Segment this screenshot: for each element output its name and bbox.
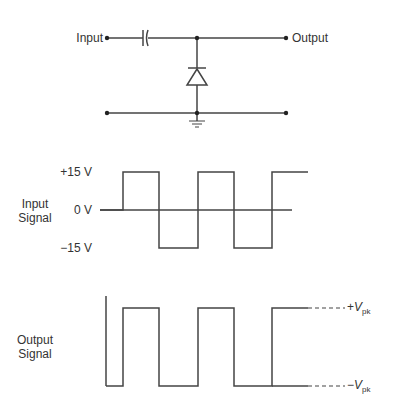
pos-sign: +	[347, 300, 354, 314]
junction-dot-bottom	[195, 111, 199, 115]
tick-minus15v: −15 V	[48, 241, 92, 255]
output-signal-title: Output Signal	[8, 333, 62, 361]
tick-0v: 0 V	[48, 203, 92, 217]
input-waveform	[100, 172, 308, 248]
capacitor-plate-right	[147, 30, 149, 46]
output-waveform	[106, 296, 345, 386]
pk-subscript: pk	[362, 307, 370, 316]
junction-dot-top	[195, 36, 199, 40]
pk-subscript: pk	[362, 385, 370, 394]
circuit-input-label: Input	[50, 31, 103, 45]
input-terminal-dot	[105, 36, 109, 40]
ground-terminal-dot-left	[105, 111, 109, 115]
pos-vpk-label: +Vpk	[347, 300, 370, 319]
v-symbol: V	[354, 300, 362, 314]
neg-sign: −	[347, 378, 354, 392]
output-signal-title-line2: Signal	[8, 347, 62, 361]
output-square-wave	[106, 308, 308, 386]
output-terminal-dot	[284, 36, 288, 40]
neg-vpk-label: −Vpk	[347, 378, 370, 397]
diode-triangle-icon	[187, 69, 207, 85]
v-symbol: V	[354, 378, 362, 392]
tick-plus15v: +15 V	[48, 165, 92, 179]
ground-terminal-dot-right	[284, 111, 288, 115]
output-signal-title-line1: Output	[8, 333, 62, 347]
circuit-output-label: Output	[292, 31, 328, 45]
